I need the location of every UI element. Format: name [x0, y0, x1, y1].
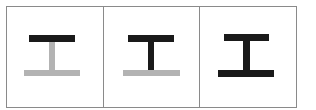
panel-divider-2	[199, 6, 200, 107]
i-beam-bottom-bar	[218, 70, 274, 77]
i-beam-top-bar	[29, 35, 75, 42]
i-beam-bottom-bar	[24, 70, 80, 76]
panel-divider-1	[103, 6, 104, 107]
i-beam-top-bar	[224, 34, 269, 41]
i-beam-stem	[243, 41, 250, 70]
i-beam-stem	[148, 41, 154, 70]
i-beam-stem	[49, 42, 55, 70]
i-beam-bottom-bar	[123, 70, 180, 76]
